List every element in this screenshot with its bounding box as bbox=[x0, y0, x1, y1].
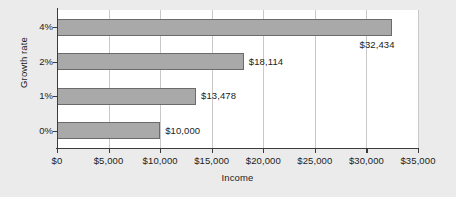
x-axis-tickmark bbox=[212, 149, 213, 153]
gridline bbox=[418, 10, 419, 148]
x-axis-tick-label: $35,000 bbox=[400, 155, 435, 166]
data-label: $13,478 bbox=[201, 90, 236, 101]
x-axis-tickmark bbox=[315, 149, 316, 153]
y-axis-tickmark bbox=[53, 62, 57, 63]
y-axis-tickmark bbox=[53, 131, 57, 132]
y-axis-tickmark bbox=[53, 96, 57, 97]
x-axis-tick-label: $5,000 bbox=[94, 155, 124, 166]
plot-area bbox=[57, 10, 418, 148]
data-label: $10,000 bbox=[165, 125, 200, 136]
y-axis-line bbox=[57, 8, 58, 150]
x-axis-tick-label: $10,000 bbox=[143, 155, 178, 166]
y-axis-tick-label: 0% bbox=[22, 125, 53, 136]
bar bbox=[57, 122, 160, 139]
x-axis-tick-label: $0 bbox=[52, 155, 63, 166]
data-label: $32,434 bbox=[360, 39, 395, 50]
bar-chart: 0%1%2%4% Growth rate $10,000$13,478$18,1… bbox=[0, 0, 456, 197]
x-axis-tickmark bbox=[160, 149, 161, 153]
x-axis-tick-label: $15,000 bbox=[194, 155, 229, 166]
data-label: $18,114 bbox=[249, 56, 283, 67]
bar bbox=[57, 88, 196, 105]
x-axis-tick-label: $20,000 bbox=[246, 155, 281, 166]
y-axis-tickmark bbox=[53, 27, 57, 28]
x-axis-tickmark bbox=[418, 149, 419, 153]
x-axis-line bbox=[56, 148, 419, 149]
x-axis-title: Income bbox=[57, 172, 418, 183]
x-axis-tickmark bbox=[366, 149, 367, 153]
bar bbox=[57, 19, 392, 36]
x-axis-tick-label: $30,000 bbox=[349, 155, 384, 166]
y-axis-title: Growth rate bbox=[18, 17, 29, 109]
x-axis-tickmark bbox=[57, 149, 58, 153]
bar bbox=[57, 53, 244, 70]
x-axis-tickmark bbox=[263, 149, 264, 153]
x-axis-tickmark bbox=[109, 149, 110, 153]
x-axis-tick-label: $25,000 bbox=[297, 155, 332, 166]
